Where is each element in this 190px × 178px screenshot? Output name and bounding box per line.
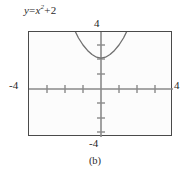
equation-label: y=x2+2	[24, 4, 56, 16]
figure-container: y=x2+2	[0, 0, 190, 178]
axis-label-bottom: -4	[89, 137, 98, 149]
figure-caption: (b)	[0, 155, 190, 166]
plot-frame	[28, 31, 172, 136]
equation-constant: 2	[51, 4, 57, 16]
graph-canvas	[29, 32, 173, 137]
axis-label-right: 4	[174, 79, 180, 91]
axis-label-left: -4	[9, 79, 18, 91]
axis-label-top: 4	[94, 17, 100, 29]
